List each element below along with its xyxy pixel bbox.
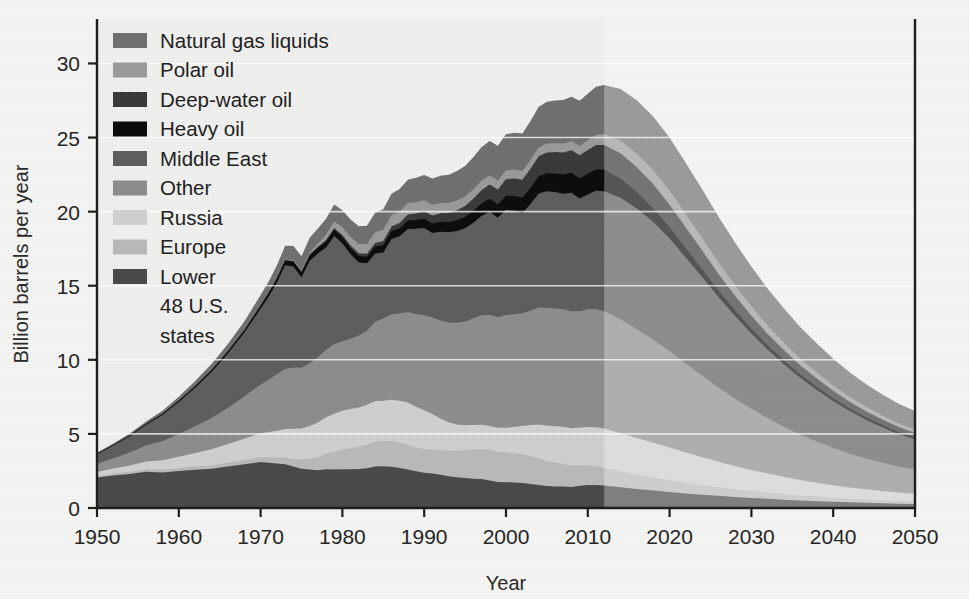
legend-label-lower-48-cont-2: states xyxy=(160,324,215,347)
x-tick-label-2010: 2010 xyxy=(564,525,611,548)
x-tick-label-2030: 2030 xyxy=(728,525,775,548)
y-tick-label-15: 15 xyxy=(57,275,80,298)
legend-swatch-middle-east xyxy=(113,151,147,166)
x-axis-tick-labels: 1950196019701980199020002010202020302040… xyxy=(74,525,939,548)
y-tick-label-10: 10 xyxy=(57,349,80,372)
y-tick-label-25: 25 xyxy=(57,127,80,150)
legend-swatch-europe xyxy=(113,240,147,255)
x-tick-label-2040: 2040 xyxy=(810,525,857,548)
y-tick-label-20: 20 xyxy=(57,201,80,224)
legend-label-polar-oil: Polar oil xyxy=(160,58,234,81)
legend-label-middle-east: Middle East xyxy=(160,147,267,170)
legend-label-europe: Europe xyxy=(160,235,226,258)
legend-label-natural-gas-liquids: Natural gas liquids xyxy=(160,29,329,52)
figure-container: 051015202530 195019601970198019902000201… xyxy=(0,0,969,599)
stacked-area-chart: 051015202530 195019601970198019902000201… xyxy=(0,0,969,599)
legend-swatch-natural-gas-liquids xyxy=(113,33,147,48)
x-tick-label-1980: 1980 xyxy=(319,525,366,548)
legend-swatch-russia xyxy=(113,210,147,225)
legend-label-lower-48-cont-1: 48 U.S. xyxy=(160,294,228,317)
y-axis-tick-labels: 051015202530 xyxy=(57,52,80,520)
x-tick-label-1970: 1970 xyxy=(237,525,284,548)
legend-swatch-heavy-oil xyxy=(113,122,147,137)
legend-swatch-polar-oil xyxy=(113,63,147,78)
y-tick-label-0: 0 xyxy=(68,497,80,520)
legend-label-heavy-oil: Heavy oil xyxy=(160,117,244,140)
legend-swatch-deep-water-oil xyxy=(113,92,147,107)
x-axis-title: Year xyxy=(486,572,527,594)
forecast-shaded-region xyxy=(604,19,915,508)
x-tick-label-2050: 2050 xyxy=(892,525,939,548)
legend-label-russia: Russia xyxy=(160,206,223,229)
x-tick-label-1960: 1960 xyxy=(155,525,202,548)
x-tick-label-2020: 2020 xyxy=(646,525,693,548)
legend-label-deep-water-oil: Deep-water oil xyxy=(160,88,292,111)
legend-swatch-other xyxy=(113,181,147,196)
y-tick-label-5: 5 xyxy=(68,423,80,446)
legend-swatch-lower xyxy=(113,269,147,284)
x-tick-label-1990: 1990 xyxy=(401,525,448,548)
legend-label-lower: Lower xyxy=(160,265,216,288)
y-tick-label-30: 30 xyxy=(57,52,80,75)
x-tick-label-1950: 1950 xyxy=(74,525,121,548)
x-axis-ticks xyxy=(97,508,915,517)
y-axis-title: Billion barrels per year xyxy=(10,164,32,363)
y-axis-ticks xyxy=(88,63,97,508)
x-tick-label-2000: 2000 xyxy=(483,525,530,548)
legend-label-other: Other xyxy=(160,176,211,199)
